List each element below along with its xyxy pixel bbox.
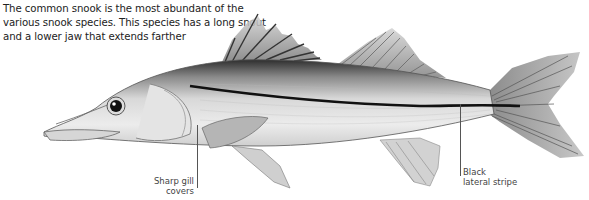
stripe-callout-line2: lateral stripe <box>463 177 523 187</box>
stripe-callout-line1: Black <box>463 167 523 177</box>
stripe-callout-line <box>460 104 461 176</box>
pelvic-fin <box>232 146 290 188</box>
spiny-dorsal-fin <box>222 14 322 62</box>
gill-callout-line <box>197 125 198 188</box>
stripe-callout-label: Black lateral stripe <box>463 167 523 187</box>
gill-callout-label: Sharp gill covers <box>150 176 194 196</box>
